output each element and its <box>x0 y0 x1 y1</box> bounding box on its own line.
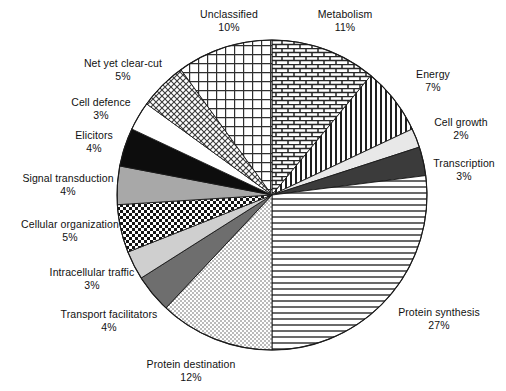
slice-label-energy-name: Energy <box>397 68 469 81</box>
slice-label-cell-defence: Cell defence 3% <box>57 96 145 121</box>
slice-label-metabolism-name: Metabolism <box>295 8 395 21</box>
slice-label-energy-value: 7% <box>397 81 469 94</box>
slice-label-metabolism: Metabolism 11% <box>295 8 395 33</box>
slice-label-elicitors-value: 4% <box>59 142 129 155</box>
slice-label-net-yet-clear-cut-name: Net yet clear-cut <box>62 57 184 70</box>
slice-label-transcription-value: 3% <box>424 170 504 183</box>
slice-label-net-yet-clear-cut-value: 5% <box>62 70 184 83</box>
slice-label-intracellular-traffic-name: Intracellular traffic <box>34 266 150 279</box>
slice-label-protein-destination-name: Protein destination <box>129 358 253 371</box>
slice-label-cell-growth: Cell growth 2% <box>420 116 502 141</box>
slice-label-unclassified-value: 10% <box>174 21 284 34</box>
slice-label-cellular-organization-value: 5% <box>6 231 134 244</box>
slice-label-protein-synthesis: Protein synthesis 27% <box>384 306 494 331</box>
slice-label-cellular-organization-name: Cellular organization <box>6 218 134 231</box>
slice-label-cell-defence-value: 3% <box>57 109 145 122</box>
slice-label-metabolism-value: 11% <box>295 21 395 34</box>
slice-label-transport-facilitators: Transport facilitators 4% <box>48 308 170 333</box>
slice-label-protein-synthesis-value: 27% <box>384 319 494 332</box>
slice-label-signal-transduction: Signal transduction 4% <box>7 172 129 197</box>
slice-label-cell-defence-name: Cell defence <box>57 96 145 109</box>
slice-label-elicitors: Elicitors 4% <box>59 129 129 154</box>
slice-label-signal-transduction-name: Signal transduction <box>7 172 129 185</box>
slice-label-unclassified: Unclassified 10% <box>174 8 284 33</box>
slice-label-transport-facilitators-value: 4% <box>48 321 170 334</box>
slice-label-cell-growth-name: Cell growth <box>420 116 502 129</box>
slice-label-protein-destination-value: 12% <box>129 371 253 384</box>
slice-label-protein-synthesis-name: Protein synthesis <box>384 306 494 319</box>
slice-label-signal-transduction-value: 4% <box>7 185 129 198</box>
pie-chart-figure: Metabolism 11%Energy 7%Cell growth 2%Tra… <box>0 0 506 391</box>
slice-label-intracellular-traffic-value: 3% <box>34 279 150 292</box>
slice-label-unclassified-name: Unclassified <box>174 8 284 21</box>
slice-label-protein-destination: Protein destination 12% <box>129 358 253 383</box>
slice-label-transcription: Transcription 3% <box>424 157 504 182</box>
slice-label-cell-growth-value: 2% <box>420 129 502 142</box>
slice-label-energy: Energy 7% <box>397 68 469 93</box>
slice-label-intracellular-traffic: Intracellular traffic 3% <box>34 266 150 291</box>
slice-label-transcription-name: Transcription <box>424 157 504 170</box>
slice-label-net-yet-clear-cut: Net yet clear-cut 5% <box>62 57 184 82</box>
pie-slices-group: Metabolism 11%Energy 7%Cell growth 2%Tra… <box>117 40 427 350</box>
slice-label-cellular-organization: Cellular organization 5% <box>6 218 134 243</box>
slice-label-elicitors-name: Elicitors <box>59 129 129 142</box>
slice-label-transport-facilitators-name: Transport facilitators <box>48 308 170 321</box>
